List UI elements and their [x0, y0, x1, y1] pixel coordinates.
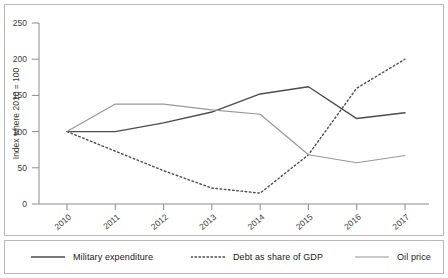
- x-tick-label: 2014: [246, 212, 267, 232]
- chart-figure: 050100150200250Index where 2010 = 100201…: [0, 0, 448, 278]
- series-line-0: [67, 87, 405, 132]
- legend-label-debt-share-gdp: Debt as share of GDP: [233, 252, 323, 262]
- x-tick-label: 2013: [197, 212, 218, 232]
- legend-item-oil-price: Oil price: [355, 252, 431, 262]
- y-tick-label: 250: [13, 18, 27, 28]
- legend-line-swatch-oil: [355, 252, 389, 262]
- x-tick-label: 2016: [342, 212, 363, 232]
- x-tick-label: 2010: [52, 212, 73, 232]
- x-tick-label: 2017: [390, 212, 411, 232]
- legend-item-debt-share-gdp: Debt as share of GDP: [191, 252, 323, 262]
- chart-legend: Military expenditure Debt as share of GD…: [4, 240, 444, 274]
- y-tick-label: 200: [13, 54, 27, 64]
- legend-label-oil-price: Oil price: [397, 252, 431, 262]
- x-tick-label: 2011: [101, 212, 122, 232]
- series-line-2: [67, 104, 405, 163]
- line-chart-svg: 050100150200250Index where 2010 = 100201…: [5, 5, 443, 235]
- plot-area-panel: 050100150200250Index where 2010 = 100201…: [4, 4, 444, 236]
- legend-label-military-expenditure: Military expenditure: [73, 252, 153, 262]
- series-line-1: [67, 59, 405, 193]
- legend-line-swatch-military: [31, 252, 65, 262]
- y-axis-title: Index where 2010 = 100: [11, 68, 21, 160]
- legend-line-swatch-debt: [191, 252, 225, 262]
- y-tick-label: 0: [22, 199, 27, 209]
- legend-item-military-expenditure: Military expenditure: [31, 252, 153, 262]
- x-tick-label: 2015: [294, 212, 315, 232]
- y-tick-label: 50: [18, 163, 28, 173]
- x-tick-label: 2012: [149, 212, 170, 232]
